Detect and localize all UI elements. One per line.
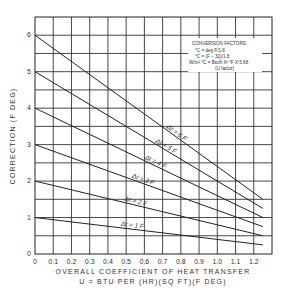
y-tick-label: 6 — [27, 31, 31, 38]
conversion-line-3: W/m² °C = Btu/h ft² °F X 5.68 — [189, 60, 249, 65]
y-tick-label: 0 — [27, 250, 31, 257]
y-tick-label: 2 — [27, 177, 31, 184]
series-label-0: Δt = 6 F — [165, 122, 189, 142]
y-tick-label: 3 — [27, 141, 31, 148]
x-tick-label: 0.1 — [48, 258, 58, 265]
conversion-line-2: °C = (F − 32)/1.8 — [195, 54, 230, 59]
y-tick-label: 5 — [27, 68, 31, 75]
x-tick-label: 0.7 — [158, 258, 168, 265]
series-label-3: Δt = 3 F — [130, 171, 156, 186]
x-tick-label: 0.8 — [176, 258, 186, 265]
x-tick-label: 1.0 — [212, 258, 222, 265]
x-tick-label: 0.6 — [140, 258, 150, 265]
x-tick-label: 1.2 — [249, 258, 259, 265]
x-tick-label: 0 — [33, 258, 37, 265]
data-line-series-5 — [35, 218, 263, 245]
x-tick-label: 0.3 — [85, 258, 95, 265]
x-tick-label: 0.2 — [67, 258, 77, 265]
y-tick-label: 4 — [27, 104, 31, 111]
x-tick-label: 0.4 — [103, 258, 113, 265]
conversion-line-4: (U factor) — [215, 66, 235, 71]
x-tick-labels: 00.10.20.30.40.50.60.70.80.91.01.11.2 — [33, 258, 259, 265]
x-tick-label: 0.9 — [194, 258, 204, 265]
y-axis-label: CORRECTION (F DEG) — [9, 88, 17, 185]
x-axis-sublabel: U = BTU PER (HR)(SQ FT)(F DEG) — [79, 278, 226, 286]
x-tick-label: 1.1 — [231, 258, 241, 265]
conversion-title: CONVERSION FACTORS — [192, 41, 246, 46]
data-line-series-1 — [35, 72, 263, 209]
x-tick-label: 0.5 — [121, 258, 131, 265]
data-line-series-4 — [35, 181, 263, 236]
conversion-factors-box: CONVERSION FACTORS °C = deg F/1.8 °C = (… — [188, 38, 262, 72]
heat-transfer-correction-chart: 00.10.20.30.40.50.60.70.80.91.01.11.2 01… — [0, 0, 290, 293]
x-axis-label: OVERALL COEFFICIENT OF HEAT TRANSFER — [56, 268, 251, 275]
y-tick-labels: 0123456 — [27, 31, 31, 257]
conversion-line-1: °C = deg F/1.8 — [195, 48, 225, 53]
y-tick-label: 1 — [27, 214, 31, 221]
